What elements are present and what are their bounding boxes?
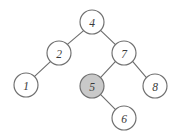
tree-node-7[interactable]: 7: [112, 41, 136, 65]
node-label-2: 2: [56, 48, 62, 60]
node-label-8: 8: [152, 81, 158, 93]
node-label-6: 6: [121, 113, 127, 125]
tree-node-8[interactable]: 8: [143, 74, 167, 98]
tree-edge-n4-n7: [101, 31, 115, 45]
tree-edge-n2-n1: [35, 62, 51, 77]
tree-node-2[interactable]: 2: [47, 41, 71, 65]
tree-edge-n5-n6: [101, 95, 116, 110]
node-label-5: 5: [89, 81, 95, 93]
tree-edge-n7-n5: [101, 62, 116, 78]
tree-node-6[interactable]: 6: [112, 106, 136, 130]
tree-node-4[interactable]: 4: [80, 10, 104, 34]
tree-edge-n7-n8: [133, 62, 146, 78]
node-label-1: 1: [23, 80, 29, 92]
tree-canvas: 4271586: [0, 0, 180, 140]
tree-edge-n4-n2: [67, 31, 83, 45]
tree-node-5-highlighted[interactable]: 5: [80, 74, 104, 98]
binary-tree-diagram: 4271586: [0, 0, 180, 140]
tree-nodes-group: 4271586: [14, 10, 167, 130]
node-label-4: 4: [89, 17, 95, 29]
tree-node-1[interactable]: 1: [14, 73, 38, 97]
